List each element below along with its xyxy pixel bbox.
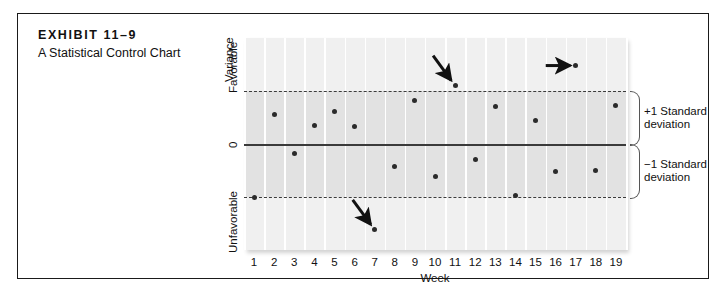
brace-plus-one-sd [630,91,640,146]
x-tick-label-14: 14 [509,256,522,268]
sd-annotations: +1 Standard deviation −1 Standard deviat… [630,38,700,250]
label-minus-one-sd-line2: deviation [644,171,690,183]
x-axis-title: Week [244,272,626,284]
x-axis-ticks: 12345678910111213141516171819 [244,256,626,270]
x-tick-label-10: 10 [429,256,442,268]
x-tick-label-5: 5 [331,256,337,268]
x-tick-label-17: 17 [569,256,582,268]
out-of-control-week-11-arrow-icon [433,56,451,81]
exhibit-title: EXHIBIT 11–9 [38,28,180,42]
plot-area [244,38,626,250]
label-minus-one-sd-line1: −1 Standard [644,158,707,170]
x-tick-label-2: 2 [271,256,277,268]
title-block: EXHIBIT 11–9 A Statistical Control Chart [38,28,180,60]
annotation-arrows [244,38,626,250]
label-minus-one-sd: −1 Standard deviation [644,158,707,184]
x-tick-label-3: 3 [291,256,297,268]
x-tick-label-12: 12 [469,256,482,268]
y-tick-label-favorable: Favorable [227,42,239,93]
x-tick-label-7: 7 [371,256,377,268]
label-plus-one-sd-line2: deviation [644,118,690,130]
x-tick-label-15: 15 [529,256,542,268]
x-tick-label-11: 11 [449,256,461,268]
gridline [626,38,628,250]
x-tick-label-13: 13 [489,256,502,268]
x-tick-label-18: 18 [589,256,602,268]
x-tick-label-9: 9 [412,256,418,268]
label-plus-one-sd-line1: +1 Standard [644,105,707,117]
x-tick-label-4: 4 [311,256,317,268]
label-plus-one-sd: +1 Standard deviation [644,105,707,131]
x-tick-label-1: 1 [251,256,257,268]
x-tick-label-19: 19 [610,256,623,268]
control-chart: Variance Favorable 0 Unfavorable 1234567… [227,26,697,276]
out-of-control-week-7-arrow-icon [353,200,371,225]
y-tick-label-unfavorable: Unfavorable [227,191,239,253]
exhibit-frame: EXHIBIT 11–9 A Statistical Control Chart… [17,13,709,279]
x-tick-label-16: 16 [549,256,562,268]
exhibit-subtitle: A Statistical Control Chart [38,46,180,60]
brace-minus-one-sd [630,144,640,199]
x-tick-label-8: 8 [392,256,398,268]
x-tick-label-6: 6 [351,256,357,268]
y-tick-label-zero: 0 [227,142,239,148]
